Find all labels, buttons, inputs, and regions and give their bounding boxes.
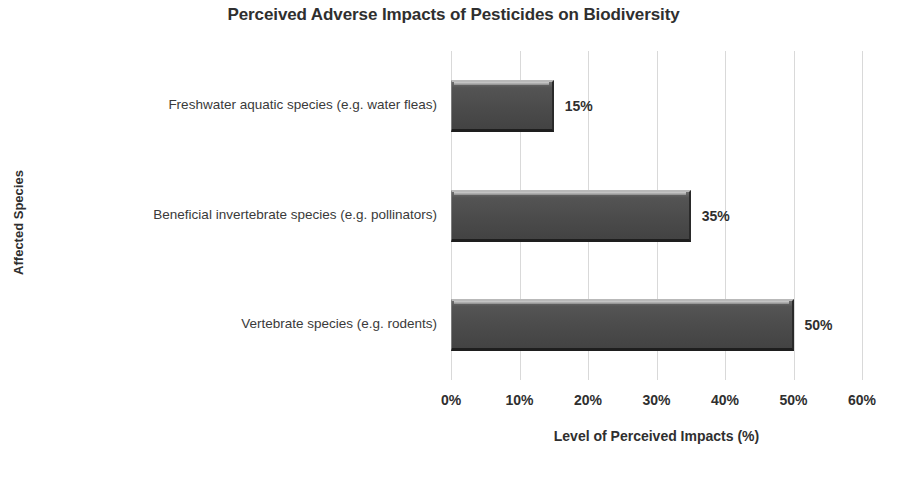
category-label: Vertebrate species (e.g. rodents) [30, 316, 437, 331]
bar[interactable] [451, 299, 794, 351]
bar-highlight [454, 301, 789, 304]
y-axis-title: Affected Species [11, 133, 26, 313]
bar-value-label: 35% [702, 208, 730, 224]
bar-row: 50% [451, 299, 862, 351]
x-tick-label: 20% [558, 392, 618, 408]
bar-chart: Perceived Adverse Impacts of Pesticides … [0, 0, 907, 479]
x-tick-label: 60% [832, 392, 892, 408]
bar-value-label: 15% [565, 98, 593, 114]
y-axis-category-labels: Freshwater aquatic species (e.g. water f… [30, 51, 445, 380]
bar-highlight [454, 82, 549, 85]
gridline [862, 51, 863, 380]
chart-title: Perceived Adverse Impacts of Pesticides … [0, 5, 907, 25]
bar-value-label: 50% [805, 317, 833, 333]
category-label: Freshwater aquatic species (e.g. water f… [30, 97, 437, 112]
bar-row: 15% [451, 80, 862, 132]
x-axis-title: Level of Perceived Impacts (%) [451, 428, 862, 444]
x-tick-label: 40% [695, 392, 755, 408]
bar-highlight [454, 192, 686, 195]
bar[interactable] [451, 190, 691, 242]
x-tick-label: 0% [421, 392, 481, 408]
x-axis-tick-labels: 0%10%20%30%40%50%60% [451, 392, 862, 416]
x-tick-label: 10% [490, 392, 550, 408]
bar[interactable] [451, 80, 554, 132]
category-label: Beneficial invertebrate species (e.g. po… [30, 207, 437, 222]
x-tick-label: 30% [627, 392, 687, 408]
bar-row: 35% [451, 190, 862, 242]
x-tick-label: 50% [764, 392, 824, 408]
plot-area: 15%35%50% [451, 51, 862, 380]
